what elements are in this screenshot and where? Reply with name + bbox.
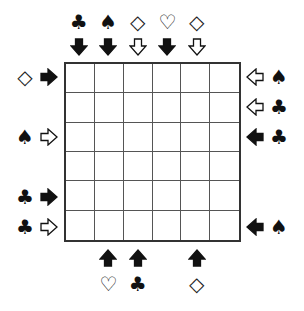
grid-cell[interactable] bbox=[210, 211, 239, 240]
club-clue-icon: ♣ bbox=[268, 126, 290, 148]
grid-cell[interactable] bbox=[66, 211, 95, 240]
arrow-down-outline-icon bbox=[127, 36, 149, 58]
arrow-right-outline-icon bbox=[38, 126, 60, 148]
puzzle-grid bbox=[64, 62, 241, 242]
diamond-clue-icon: ◇ bbox=[186, 11, 208, 33]
arrow-up-filled-icon bbox=[97, 247, 119, 269]
grid-cell[interactable] bbox=[181, 123, 210, 152]
grid-cell[interactable] bbox=[124, 93, 153, 122]
grid-cell[interactable] bbox=[153, 181, 182, 210]
arrow-left-filled-icon bbox=[244, 126, 266, 148]
grid-cell[interactable] bbox=[66, 152, 95, 181]
grid-cell[interactable] bbox=[181, 211, 210, 240]
spade-clue-icon: ♠ bbox=[268, 66, 290, 88]
grid-cell[interactable] bbox=[210, 123, 239, 152]
diamond-clue-icon: ◇ bbox=[186, 273, 208, 295]
grid-cell[interactable] bbox=[66, 64, 95, 93]
arrow-down-filled-icon bbox=[156, 36, 178, 58]
club-clue-icon: ♣ bbox=[14, 186, 36, 208]
arrow-down-outline-icon bbox=[186, 36, 208, 58]
heart-icon: ♡ bbox=[99, 274, 117, 294]
grid-cell[interactable] bbox=[181, 181, 210, 210]
diamond-clue-icon: ◇ bbox=[127, 11, 149, 33]
club-icon: ♣ bbox=[129, 274, 147, 294]
arrow-right-filled-icon bbox=[38, 66, 60, 88]
grid-cell[interactable] bbox=[153, 211, 182, 240]
grid-cell[interactable] bbox=[95, 93, 124, 122]
arrow-up-filled-icon bbox=[127, 247, 149, 269]
grid-cell[interactable] bbox=[124, 181, 153, 210]
grid-cell[interactable] bbox=[181, 93, 210, 122]
spade-icon: ♠ bbox=[99, 12, 117, 32]
grid-cell[interactable] bbox=[210, 152, 239, 181]
club-icon: ♣ bbox=[16, 217, 34, 237]
grid-cell[interactable] bbox=[66, 93, 95, 122]
grid-cell[interactable] bbox=[210, 93, 239, 122]
diamond-icon: ◇ bbox=[189, 12, 204, 32]
grid-cell[interactable] bbox=[124, 123, 153, 152]
arrow-left-filled-icon bbox=[244, 216, 266, 238]
club-icon: ♣ bbox=[270, 127, 288, 147]
diamond-clue-icon: ◇ bbox=[14, 66, 36, 88]
club-clue-icon: ♣ bbox=[268, 96, 290, 118]
grid-cell[interactable] bbox=[124, 64, 153, 93]
arrow-up-filled-icon bbox=[186, 247, 208, 269]
diamond-icon: ◇ bbox=[189, 274, 204, 294]
arrow-down-filled-icon bbox=[68, 36, 90, 58]
grid-cell[interactable] bbox=[95, 211, 124, 240]
arrow-down-filled-icon bbox=[97, 36, 119, 58]
grid-cell[interactable] bbox=[66, 123, 95, 152]
grid-cell[interactable] bbox=[95, 181, 124, 210]
grid-cell[interactable] bbox=[181, 152, 210, 181]
grid-cell[interactable] bbox=[153, 123, 182, 152]
grid-cell[interactable] bbox=[124, 152, 153, 181]
grid-cell[interactable] bbox=[153, 64, 182, 93]
spade-clue-icon: ♠ bbox=[14, 126, 36, 148]
heart-clue-icon: ♡ bbox=[156, 11, 178, 33]
grid-cell[interactable] bbox=[95, 152, 124, 181]
club-clue-icon: ♣ bbox=[14, 216, 36, 238]
spade-clue-icon: ♠ bbox=[268, 216, 290, 238]
heart-clue-icon: ♡ bbox=[97, 273, 119, 295]
grid-cell[interactable] bbox=[210, 64, 239, 93]
club-icon: ♣ bbox=[270, 97, 288, 117]
club-icon: ♣ bbox=[16, 187, 34, 207]
spade-clue-icon: ♠ bbox=[97, 11, 119, 33]
grid-cell[interactable] bbox=[210, 181, 239, 210]
grid-cell[interactable] bbox=[153, 93, 182, 122]
spade-icon: ♠ bbox=[270, 67, 288, 87]
arrow-left-outline-icon bbox=[244, 96, 266, 118]
grid-cell[interactable] bbox=[95, 123, 124, 152]
arrow-right-outline-icon bbox=[38, 216, 60, 238]
arrow-right-filled-icon bbox=[38, 186, 60, 208]
grid-cell[interactable] bbox=[66, 181, 95, 210]
spade-icon: ♠ bbox=[270, 217, 288, 237]
arrow-left-outline-icon bbox=[244, 66, 266, 88]
club-clue-icon: ♣ bbox=[127, 273, 149, 295]
club-icon: ♣ bbox=[70, 12, 88, 32]
spade-icon: ♠ bbox=[16, 127, 34, 147]
grid-cell[interactable] bbox=[124, 211, 153, 240]
club-clue-icon: ♣ bbox=[68, 11, 90, 33]
grid-cell[interactable] bbox=[181, 64, 210, 93]
diamond-icon: ◇ bbox=[17, 67, 32, 87]
diamond-icon: ◇ bbox=[130, 12, 145, 32]
grid-cell[interactable] bbox=[95, 64, 124, 93]
heart-icon: ♡ bbox=[158, 12, 176, 32]
grid-cell[interactable] bbox=[153, 152, 182, 181]
